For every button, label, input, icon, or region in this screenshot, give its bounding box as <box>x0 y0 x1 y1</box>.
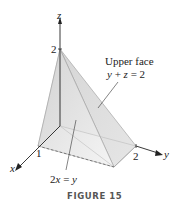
y-axis <box>136 144 163 156</box>
figure-caption: FIGURE 15 <box>67 191 122 201</box>
figure-canvas: z 2 1 x 2 y Upper face y + z = 2 2x = y … <box>0 0 186 204</box>
x-tick-label: 1 <box>36 147 42 159</box>
upper-face-equation: y + z = 2 <box>106 68 145 80</box>
y-tick-label: 2 <box>133 150 139 162</box>
z-tick-label: 2 <box>51 43 57 55</box>
plane-equation: 2x = y <box>50 173 77 185</box>
upper-face-title: Upper face <box>105 55 154 67</box>
y-axis-label: y <box>163 148 169 160</box>
x-arrow-icon <box>15 163 22 171</box>
tetrahedron-figure: z 2 1 x 2 y Upper face y + z = 2 2x = y … <box>0 0 186 204</box>
upper-face-leader <box>98 82 118 108</box>
y-arrow-icon <box>155 150 163 156</box>
x-axis-label: x <box>9 162 15 174</box>
z-axis-label: z <box>56 9 62 21</box>
